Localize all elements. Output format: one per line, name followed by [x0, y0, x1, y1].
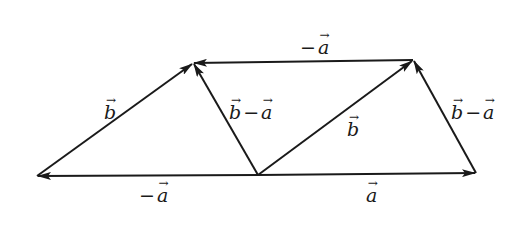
label-minus-a-top: − → a — [298, 38, 329, 57]
vector-symbol: → b — [451, 103, 463, 122]
vector-symbol: → a — [483, 103, 494, 122]
vector-minus-a-top — [194, 60, 413, 63]
vector-arrow-icon: → — [159, 177, 169, 189]
vector-symbol: → b — [104, 103, 116, 122]
vector-symbol: → b — [347, 120, 359, 139]
vector-arrow-icon: → — [231, 94, 241, 106]
label-minus-a-bottom-left: − → a — [137, 186, 168, 205]
label-b-minus-a-right: → b − → a — [451, 103, 494, 122]
label-b-minus-a-middle: → b − → a — [229, 103, 272, 122]
vector-b-center — [258, 61, 412, 175]
label-a-bottom-right: → a — [366, 186, 377, 205]
vector-minus-a-bottom-left — [38, 175, 258, 176]
vector-arrow-icon: → — [368, 177, 378, 189]
vector-symbol: → b — [229, 103, 241, 122]
vector-symbol: → a — [261, 103, 272, 122]
vector-symbol: → a — [366, 186, 377, 205]
vector-arrow-icon: → — [485, 94, 495, 106]
label-b-center: → b — [347, 120, 359, 139]
vector-arrow-icon: → — [320, 29, 330, 41]
vector-arrow-icon: → — [106, 94, 116, 106]
vector-a-bottom-right — [258, 173, 475, 175]
vector-arrow-icon: → — [349, 111, 359, 123]
vector-symbol: → a — [318, 38, 329, 57]
label-b-left: → b — [104, 103, 116, 122]
vector-arrow-icon: → — [263, 94, 273, 106]
vector-symbol: → a — [157, 186, 168, 205]
vector-arrow-icon: → — [453, 94, 463, 106]
